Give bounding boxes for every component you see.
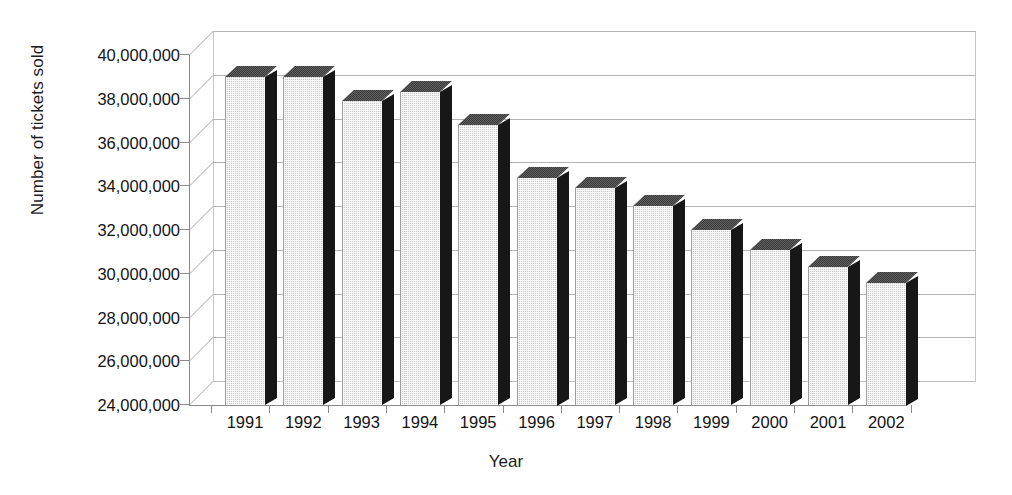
y-axis-tick-mark: [180, 229, 189, 230]
gridline-depth-connector: [189, 294, 214, 319]
bar-front-face: [575, 188, 615, 405]
bar-1994: [400, 81, 440, 405]
bar-side-face: [673, 199, 685, 405]
bar-front-face: [808, 267, 848, 405]
bar-side-face: [790, 243, 802, 405]
bar-side-face: [731, 223, 743, 405]
bar-1997: [575, 177, 615, 405]
bar-front-face: [866, 283, 906, 406]
y-axis-tick-label: 30,000,000: [20, 266, 180, 282]
bar-side-face: [382, 94, 394, 405]
x-axis-tick-mark: [794, 405, 795, 413]
y-axis-title: Number of tickets sold: [28, 0, 48, 260]
bar-side-face: [848, 260, 860, 405]
gridline-depth-connector: [189, 250, 214, 275]
bar-2002: [866, 272, 906, 406]
y-axis-tick-mark: [180, 404, 189, 405]
bar-side-face: [440, 85, 452, 405]
bar-side-face: [906, 276, 918, 405]
bar-1992: [283, 66, 323, 405]
bar-front-face: [633, 206, 673, 405]
y-axis-tick-mark: [180, 185, 189, 186]
bar-front-face: [458, 125, 498, 405]
x-axis-tick-mark: [911, 405, 912, 413]
y-axis-tick-mark: [180, 273, 189, 274]
gridline-depth-connector: [189, 119, 214, 144]
gridline-depth-connector: [189, 31, 214, 56]
bar-side-face: [265, 70, 277, 405]
x-axis-tick-mark: [386, 405, 387, 413]
x-axis-tick-mark: [619, 405, 620, 413]
bar-1998: [633, 195, 673, 405]
x-axis-tick-mark: [852, 405, 853, 413]
gridline: [213, 31, 976, 32]
gridline-depth-connector: [189, 75, 214, 100]
bar-1995: [458, 114, 498, 405]
plot-area: 40,000,00038,000,00036,000,00034,000,000…: [0, 0, 1012, 495]
bar-1996: [517, 167, 557, 406]
bar-side-face: [323, 70, 335, 405]
bar-2001: [808, 256, 848, 405]
y-axis-tick-label: 28,000,000: [20, 310, 180, 326]
gridline-depth-connector: [189, 337, 214, 362]
x-axis-tick-mark: [444, 405, 445, 413]
bar-front-face: [400, 92, 440, 405]
x-axis-tick-mark: [328, 405, 329, 413]
bar-chart: 40,000,00038,000,00036,000,00034,000,000…: [0, 0, 1012, 495]
gridline-depth-connector: [189, 381, 214, 406]
bar-front-face: [225, 77, 265, 405]
bar-side-face: [498, 118, 510, 405]
bar-front-face: [342, 101, 382, 405]
gridline-depth-connector: [189, 162, 214, 187]
gridline-depth-connector: [189, 206, 214, 231]
x-axis-tick-mark: [677, 405, 678, 413]
x-axis-title: Year: [0, 452, 1012, 472]
x-axis-tick-mark: [211, 405, 212, 413]
y-axis-tick-mark: [180, 360, 189, 361]
bar-1993: [342, 90, 382, 405]
bar-front-face: [691, 230, 731, 405]
x-axis-tick-mark: [503, 405, 504, 413]
bar-front-face: [517, 178, 557, 406]
x-axis-line: [189, 405, 905, 406]
y-axis-tick-label: 26,000,000: [20, 353, 180, 369]
y-axis-line: [189, 55, 190, 406]
bar-1991: [225, 66, 265, 405]
y-axis-tick-mark: [180, 317, 189, 318]
y-axis-tick-mark: [180, 98, 189, 99]
bar-side-face: [557, 171, 569, 405]
x-axis-tick-mark: [736, 405, 737, 413]
bar-1999: [691, 219, 731, 405]
bar-front-face: [750, 250, 790, 405]
y-axis-tick-label: 24,000,000: [20, 397, 180, 413]
bar-front-face: [283, 77, 323, 405]
x-axis-tick-mark: [561, 405, 562, 413]
bar-2000: [750, 239, 790, 405]
bar-side-face: [615, 182, 627, 405]
y-axis-tick-mark: [180, 54, 189, 55]
x-axis-tick-mark: [269, 405, 270, 413]
y-axis-tick-mark: [180, 142, 189, 143]
x-axis-tick-label: 2002: [851, 413, 921, 432]
